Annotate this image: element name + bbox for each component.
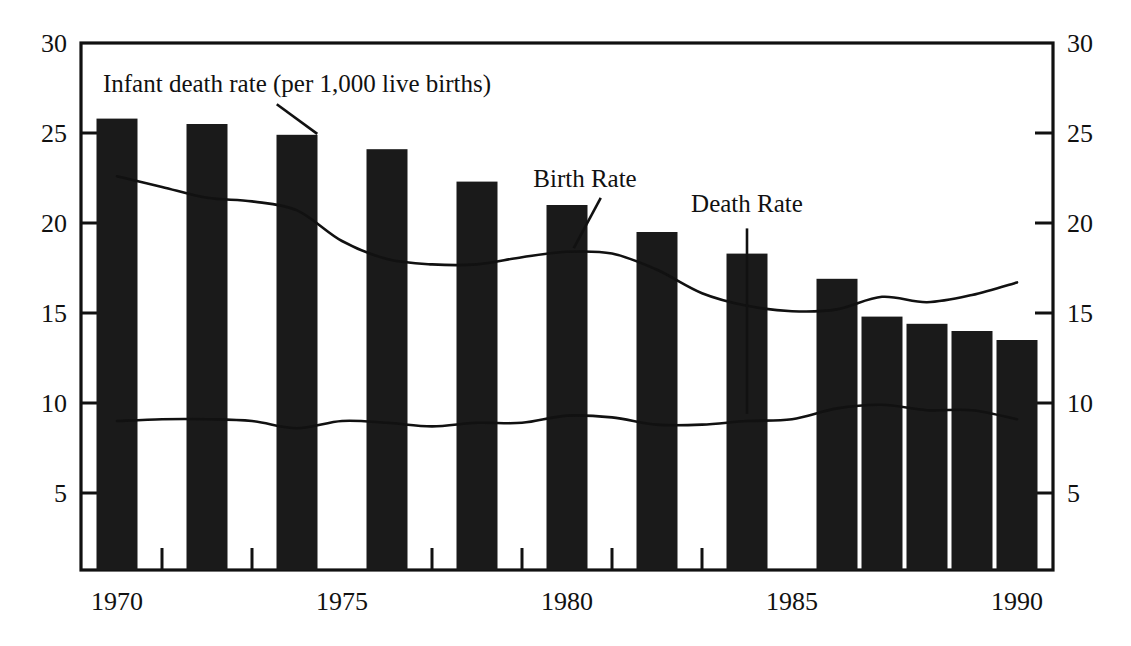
y-axis-tick-label-right: 25 — [1067, 119, 1093, 148]
y-axis-tick-label-right: 5 — [1067, 479, 1080, 508]
bar — [97, 119, 138, 570]
bar — [862, 317, 903, 570]
y-axis-tick-label-left: 10 — [41, 389, 67, 418]
bar — [952, 331, 993, 570]
birth-rate-label: Birth Rate — [533, 165, 636, 192]
bar — [187, 124, 228, 570]
y-axis-tick-label-right: 30 — [1067, 29, 1093, 58]
bar — [907, 324, 948, 570]
bar — [817, 279, 858, 570]
y-axis-tick-label-right: 15 — [1067, 299, 1093, 328]
x-axis-tick-label: 1970 — [91, 587, 143, 616]
bar — [637, 232, 678, 570]
vital-statistics-chart: 5510101515202025253030197019751980198519… — [0, 0, 1131, 646]
y-axis-tick-label-right: 20 — [1067, 209, 1093, 238]
x-axis-tick-label: 1985 — [766, 587, 818, 616]
y-axis-tick-label-left: 15 — [41, 299, 67, 328]
infant-death-rate-leader-line — [277, 104, 318, 134]
bar — [547, 205, 588, 570]
chart-canvas: 5510101515202025253030197019751980198519… — [0, 0, 1131, 646]
x-axis-tick-label: 1980 — [541, 587, 593, 616]
y-axis-tick-label-left: 20 — [41, 209, 67, 238]
bar — [457, 182, 498, 570]
death-rate-label: Death Rate — [691, 190, 803, 217]
bar — [277, 135, 318, 570]
x-axis-tick-label: 1990 — [991, 587, 1043, 616]
bar — [997, 340, 1038, 570]
bar — [367, 149, 408, 570]
y-axis-tick-label-right: 10 — [1067, 389, 1093, 418]
y-axis-tick-label-left: 25 — [41, 119, 67, 148]
y-axis-tick-label-left: 30 — [41, 29, 67, 58]
y-axis-tick-label-left: 5 — [54, 479, 67, 508]
infant-death-rate-label: Infant death rate (per 1,000 live births… — [103, 70, 491, 98]
x-axis-tick-label: 1975 — [316, 587, 368, 616]
